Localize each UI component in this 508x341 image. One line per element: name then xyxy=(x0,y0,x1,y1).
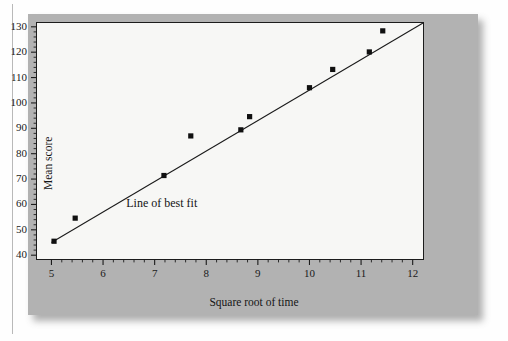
y-tick-label: 60 xyxy=(1,197,27,209)
y-tick-label: 90 xyxy=(1,121,27,133)
x-tick-label: 11 xyxy=(349,267,373,279)
x-axis-title: Square root of time xyxy=(0,296,508,308)
y-tick-label: 100 xyxy=(1,96,27,108)
x-tick-label: 7 xyxy=(143,267,167,279)
y-tick-label: 40 xyxy=(1,248,27,260)
y-tick-label: 120 xyxy=(1,45,27,57)
plot-area xyxy=(36,22,424,260)
x-tick-label: 8 xyxy=(194,267,218,279)
x-tick-label: 9 xyxy=(246,267,270,279)
x-tick-label: 5 xyxy=(39,267,63,279)
y-tick-label: 110 xyxy=(1,71,27,83)
y-tick-label: 70 xyxy=(1,172,27,184)
line-of-best-fit-label: Line of best fit xyxy=(126,196,197,211)
x-tick-label: 12 xyxy=(401,267,425,279)
x-tick-label: 6 xyxy=(91,267,115,279)
x-tick-label: 10 xyxy=(297,267,321,279)
y-tick-label: 50 xyxy=(1,223,27,235)
y-axis-title: Mean score xyxy=(42,137,54,190)
figure-page: 405060708090100110120130 56789101112 Squ… xyxy=(0,0,508,341)
y-tick-label: 80 xyxy=(1,147,27,159)
y-tick-label: 130 xyxy=(1,20,27,32)
